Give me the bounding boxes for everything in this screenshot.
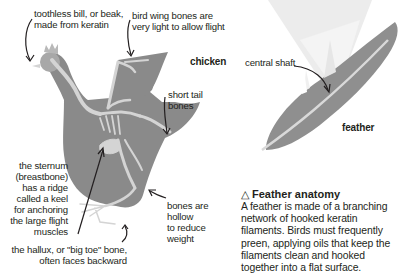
feather-title: feather xyxy=(342,122,374,133)
label-line: (breastbone) xyxy=(0,171,68,182)
label-line: weight xyxy=(167,233,208,244)
bill-arrow xyxy=(26,19,32,60)
label-line: short tail xyxy=(168,89,203,100)
hollow-label: bones are hollow to reduce weight xyxy=(167,200,208,244)
bill-arrowhead xyxy=(26,55,34,61)
chicken-comb xyxy=(44,43,58,54)
label-line: bird wing bones are xyxy=(132,10,225,21)
label-line: the large flight xyxy=(0,215,68,226)
bill-label: toothless bill, or beak, made from kerat… xyxy=(34,8,123,30)
triangle-icon: △ xyxy=(241,188,249,200)
shaft-label: central shaft xyxy=(245,57,295,68)
caption-title-text: Feather anatomy xyxy=(252,188,340,200)
hallux-label: the hallux, or "big toe" bone, often fac… xyxy=(0,244,127,266)
label-line: made from keratin xyxy=(34,19,123,30)
chicken-title: chicken xyxy=(190,56,226,67)
hollow-arrow xyxy=(150,191,166,198)
caption-body: A feather is made of a branching network… xyxy=(241,201,401,274)
label-line: for anchoring xyxy=(0,204,68,215)
label-line: the sternum xyxy=(0,160,68,171)
caption-title: △Feather anatomy xyxy=(241,188,401,201)
label-line: bones are xyxy=(167,200,208,211)
label-line: the hallux, or "big toe" bone, xyxy=(0,244,127,255)
chicken-head xyxy=(40,52,60,72)
wing-label: bird wing bones are very light to allow … xyxy=(132,10,225,32)
wing-arrow xyxy=(128,20,131,55)
feather-anatomy-caption: △Feather anatomy A feather is made of a … xyxy=(241,188,401,274)
label-line: called a keel xyxy=(0,193,68,204)
label-line: muscles xyxy=(0,226,68,237)
label-line: hollow xyxy=(167,211,208,222)
chicken-beak xyxy=(32,64,40,68)
sternum-label: the sternum (breastbone) has a ridge cal… xyxy=(0,160,68,237)
label-line: very light to allow flight xyxy=(132,21,225,32)
label-line: bones xyxy=(168,100,203,111)
label-line: to reduce xyxy=(167,222,208,233)
label-line: toothless bill, or beak, xyxy=(34,8,123,19)
label-line: has a ridge xyxy=(0,182,68,193)
label-line: often faces backward xyxy=(0,255,127,266)
tail-label: short tail bones xyxy=(168,89,203,111)
